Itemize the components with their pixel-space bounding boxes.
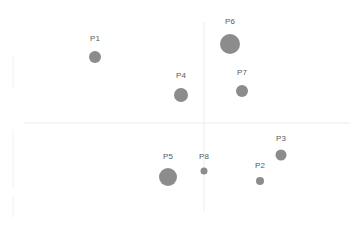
bubble-label: P6: [225, 17, 235, 26]
bubble[interactable]: [256, 177, 264, 185]
bubble-point-p7[interactable]: P7: [236, 68, 248, 97]
bubble-label: P5: [163, 152, 173, 161]
bubble-point-p5[interactable]: P5: [159, 152, 177, 186]
bubble-point-p3[interactable]: P3: [276, 134, 287, 161]
bubble-label: P3: [276, 134, 286, 143]
bubble-label: P2: [255, 161, 265, 170]
bubble[interactable]: [220, 34, 240, 54]
bubble-label: P1: [90, 34, 100, 43]
bubbles: P1P2P3P4P5P6P7P8: [89, 17, 287, 186]
bubble-point-p6[interactable]: P6: [220, 17, 240, 54]
bubble-label: P7: [237, 68, 247, 77]
bubble-chart: P1P2P3P4P5P6P7P8: [0, 0, 361, 229]
bubble-point-p2[interactable]: P2: [255, 161, 265, 185]
bubble[interactable]: [159, 168, 177, 186]
axes: [13, 22, 350, 218]
bubble-point-p1[interactable]: P1: [89, 34, 101, 63]
bubble[interactable]: [89, 51, 101, 63]
bubble-label: P4: [176, 71, 186, 80]
bubble[interactable]: [201, 168, 208, 175]
bubble-point-p4[interactable]: P4: [174, 71, 188, 102]
bubble-label: P8: [199, 152, 209, 161]
bubble[interactable]: [276, 150, 287, 161]
bubble[interactable]: [236, 85, 248, 97]
bubble[interactable]: [174, 88, 188, 102]
